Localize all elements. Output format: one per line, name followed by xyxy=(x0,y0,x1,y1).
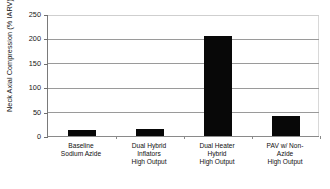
gridline xyxy=(48,63,319,64)
gridline xyxy=(48,15,319,16)
y-axis-tick-label: 200 xyxy=(29,34,41,43)
y-axis-tick-label: 100 xyxy=(29,83,41,92)
bar xyxy=(272,116,300,136)
gridline xyxy=(48,112,319,113)
gridline xyxy=(48,88,319,89)
y-axis-tick-mark xyxy=(44,15,48,16)
x-axis-category-label: Baseline Sodium Azide xyxy=(47,142,115,158)
y-axis-title: Neck Axial Compression (% IARV) xyxy=(2,0,18,150)
y-axis-tick-mark xyxy=(44,64,48,65)
x-axis-category-label: Dual Heater Hybrid High Output xyxy=(183,142,251,167)
y-axis-tick-mark xyxy=(44,137,48,138)
scan-artifact-band xyxy=(0,0,330,4)
x-axis-tick-mark xyxy=(252,136,253,139)
gridline xyxy=(48,39,319,40)
x-axis-category-label: Dual Hybrid Inflators High Output xyxy=(115,142,183,167)
y-axis-tick-label: 50 xyxy=(33,108,41,117)
x-axis-tick-mark xyxy=(320,136,321,139)
y-axis-tick-label: 250 xyxy=(29,10,41,19)
bar xyxy=(136,129,164,136)
bar-chart: Neck Axial Compression (% IARV) 25020015… xyxy=(0,0,330,189)
y-axis-tick-label: 0 xyxy=(37,132,41,141)
y-axis-tick-mark xyxy=(44,88,48,89)
plot-right-border xyxy=(318,15,319,136)
x-axis-category-label: PAV w/ Non- Azide High Output xyxy=(251,142,319,167)
y-axis-tick-mark xyxy=(44,113,48,114)
bar xyxy=(204,36,232,136)
bar xyxy=(68,130,96,136)
y-axis-tick-mark xyxy=(44,39,48,40)
x-axis-tick-mark xyxy=(116,136,117,139)
plot-area: 250200150100500 xyxy=(47,15,319,137)
x-axis-tick-mark xyxy=(184,136,185,139)
y-axis-tick-label: 150 xyxy=(29,59,41,68)
